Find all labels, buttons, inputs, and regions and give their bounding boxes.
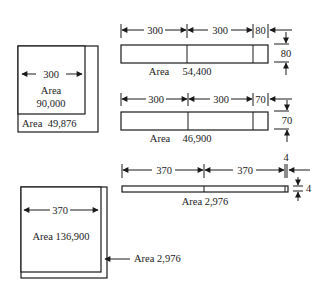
- strip-70-area-label: Area: [150, 133, 171, 144]
- area-diagram: 300 Area 90,000 Area 49,876 300 300 80 8…: [0, 0, 328, 298]
- square-300-border-area: Area 49,876: [22, 118, 77, 129]
- square-300-area-label: Area: [41, 85, 62, 96]
- strip-70-height-dim: 70: [282, 115, 293, 126]
- strip-70-rect: [121, 112, 268, 130]
- strip-80-area-label: Area: [149, 66, 170, 77]
- strip-4-height-dim: 4: [306, 183, 312, 194]
- strip-70-dim-3: 70: [255, 94, 266, 105]
- strip-70-dim-2: 300: [213, 94, 229, 105]
- strip-80-dim-2: 300: [212, 25, 228, 36]
- square-300-dimension: 300: [43, 69, 59, 80]
- strip-70-dim-1: 300: [148, 94, 164, 105]
- square-370-area-label: Area 136,900: [32, 231, 89, 242]
- strip-80-height-dim: 80: [281, 48, 292, 59]
- strip-80-area-value: 54,400: [183, 66, 212, 77]
- strip-80-figure: 300 300 80 80 Area 54,400: [121, 24, 292, 77]
- strip-70-figure: 300 300 70 70 Area 46,900: [121, 93, 292, 144]
- square-370-border-area: Area 2,976: [134, 253, 181, 264]
- strip-4-rect: [122, 186, 288, 192]
- square-370-dimension: 370: [52, 205, 68, 216]
- strip-4-dim-1: 370: [156, 165, 172, 176]
- strip-4-figure: 370 370 4 4 Area 2,976: [122, 152, 312, 207]
- strip-80-dim-3: 80: [255, 25, 266, 36]
- square-300-area-value: 90,000: [37, 98, 66, 109]
- strip-4-dim-3: 4: [283, 152, 289, 163]
- strip-4-area-label: Area 2,976: [182, 196, 229, 207]
- strip-70-area-value: 46,900: [183, 133, 212, 144]
- square-370-figure: 370 Area 136,900 Area 2,976: [21, 187, 181, 278]
- strip-80-dim-1: 300: [147, 25, 163, 36]
- inner-square-370: [21, 187, 101, 272]
- strip-4-dim-2: 370: [237, 165, 253, 176]
- square-300-figure: 300 Area 90,000 Area 49,876: [18, 46, 98, 132]
- strip-80-rect: [121, 45, 268, 63]
